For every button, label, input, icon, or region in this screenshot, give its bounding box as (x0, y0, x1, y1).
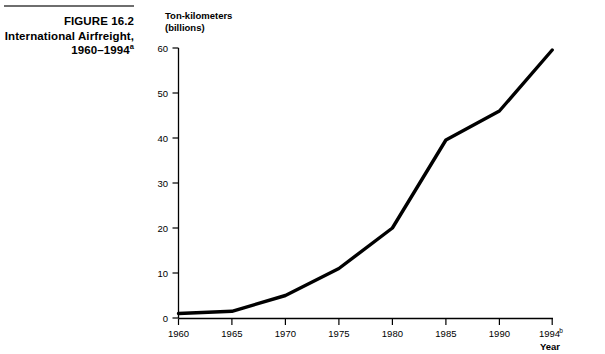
caption-line-figure-number: FIGURE 16.2 (0, 14, 134, 29)
y-tick-label-20: 20 (157, 223, 168, 234)
x-tick-label-1965: 1965 (221, 328, 242, 339)
caption-years-text: 1960–1994 (71, 44, 129, 56)
x-tick-label-1994-footnote-marker: b (559, 327, 563, 334)
y-tick-label-60: 60 (157, 43, 168, 54)
y-tick-label-10: 10 (157, 268, 168, 279)
caption-line-title: International Airfreight, (0, 29, 134, 44)
y-axis-ticks (173, 48, 179, 318)
x-axis-title: Year (540, 341, 560, 352)
y-tick-label-50: 50 (157, 88, 168, 99)
x-tick-label-1975: 1975 (328, 328, 349, 339)
y-axis-tick-labels: 60 50 40 30 20 10 0 (157, 43, 168, 324)
caption-footnote-marker: a (130, 42, 134, 51)
top-rule-divider (4, 5, 134, 7)
y-tick-label-30: 30 (157, 178, 168, 189)
x-axis-ticks (179, 319, 553, 326)
y-tick-label-0: 0 (163, 313, 168, 324)
x-axis-tick-labels: 1960 1965 1970 1975 1980 1985 1990 1994 … (168, 327, 563, 339)
data-series-line (179, 50, 553, 314)
x-tick-label-1960: 1960 (168, 328, 189, 339)
x-tick-label-1970: 1970 (275, 328, 296, 339)
y-tick-label-40: 40 (157, 133, 168, 144)
x-tick-label-1994: 1994 (539, 328, 560, 339)
x-tick-label-1980: 1980 (382, 328, 403, 339)
line-chart-plot: 60 50 40 30 20 10 0 1960 (140, 0, 605, 354)
footnote-text (142, 348, 542, 354)
x-tick-label-1990: 1990 (489, 328, 510, 339)
caption-line-years: 1960–1994a (0, 43, 134, 58)
chart-container: Ton-kilometers (billions) 60 50 (140, 0, 605, 354)
figure-root: FIGURE 16.2 International Airfreight, 19… (0, 0, 605, 354)
figure-caption: FIGURE 16.2 International Airfreight, 19… (0, 14, 134, 58)
x-tick-label-1985: 1985 (435, 328, 456, 339)
